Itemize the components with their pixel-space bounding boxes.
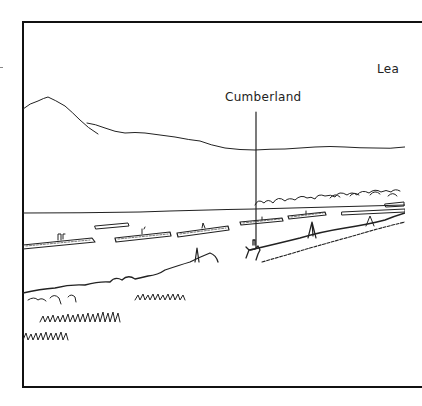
log-raft bbox=[385, 202, 404, 207]
log-raft bbox=[177, 226, 229, 237]
foreground-bank-left-grass-lower bbox=[23, 332, 68, 340]
foreground-bank-left bbox=[23, 253, 218, 293]
log-raft bbox=[115, 232, 171, 242]
label-lea-truncated: Lea bbox=[377, 62, 399, 76]
foreground-bank-left-grass bbox=[40, 312, 120, 322]
mountain-ridge bbox=[23, 97, 98, 134]
figure bbox=[142, 227, 145, 234]
figures-on-bank bbox=[28, 295, 76, 304]
foreground-bank-mid-grass bbox=[135, 294, 185, 300]
figure bbox=[58, 234, 65, 240]
label-cumberland: Cumberland bbox=[225, 90, 302, 104]
log-raft bbox=[23, 238, 95, 249]
log-raft bbox=[95, 223, 129, 229]
figure bbox=[202, 223, 205, 228]
distant-hills bbox=[87, 123, 405, 150]
mast bbox=[308, 222, 316, 238]
mast bbox=[195, 248, 199, 262]
log-raft bbox=[342, 209, 405, 215]
